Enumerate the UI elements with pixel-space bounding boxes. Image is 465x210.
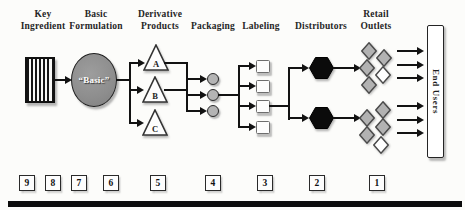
retail-diamond-icon bbox=[359, 109, 375, 127]
line-branch-vertical bbox=[129, 62, 131, 124]
labeling-square-1 bbox=[256, 60, 270, 74]
arrow-to-label-2 bbox=[239, 85, 249, 87]
distributor-hexagon-1 bbox=[309, 57, 334, 79]
packaging-circle-3 bbox=[207, 105, 219, 117]
end-users-box: End Users bbox=[427, 25, 444, 158]
basic-formulation-ellipse: “Basic” bbox=[71, 53, 117, 107]
packaging-circle-1 bbox=[207, 73, 219, 85]
sequence-box-7: 7 bbox=[71, 175, 87, 191]
labeling-square-2 bbox=[256, 80, 270, 94]
arrow-to-package-3 bbox=[187, 110, 200, 112]
sequence-box-3: 3 bbox=[257, 175, 273, 191]
distributor-hexagon-2 bbox=[309, 107, 334, 129]
arrow-to-label-1 bbox=[239, 65, 249, 67]
arrow-to-distributor-2 bbox=[289, 117, 302, 119]
arrow-to-end-users-2 bbox=[397, 64, 417, 66]
arrow-to-end-users-4 bbox=[397, 105, 417, 107]
line-labeling-vertical bbox=[238, 65, 240, 128]
stage-label-retail-outlets: Retail Outlets bbox=[346, 9, 406, 32]
sequence-box-8: 8 bbox=[45, 175, 61, 191]
arrow-ingredient-to-formulation bbox=[55, 79, 65, 81]
end-users-label: End Users bbox=[431, 69, 441, 114]
sequence-box-1: 1 bbox=[369, 175, 385, 191]
arrow-to-product-c bbox=[130, 122, 137, 124]
arrow-to-retail-cluster-2 bbox=[333, 117, 354, 119]
arrow-to-package-1 bbox=[187, 78, 200, 80]
labeling-square-4 bbox=[256, 121, 270, 135]
arrow-to-end-users-6 bbox=[397, 132, 417, 134]
sequence-box-5: 5 bbox=[150, 175, 166, 191]
arrow-to-label-3 bbox=[239, 105, 249, 107]
arrow-to-end-users-3 bbox=[397, 77, 417, 79]
arrow-to-end-users-1 bbox=[397, 50, 417, 52]
bottom-rule bbox=[8, 201, 462, 207]
triangle-product-a: A bbox=[143, 44, 169, 71]
sequence-box-6: 6 bbox=[103, 175, 119, 191]
arrow-to-label-4 bbox=[239, 126, 249, 128]
sequence-box-2: 2 bbox=[309, 175, 325, 191]
retail-diamond-icon bbox=[359, 59, 375, 77]
line-collector-vertical bbox=[186, 62, 188, 112]
arrow-to-distributor-1 bbox=[289, 67, 302, 69]
triangle-product-c: C bbox=[142, 109, 168, 136]
line-labeling-out bbox=[269, 105, 289, 107]
line-packaging-out bbox=[218, 94, 239, 96]
sequence-box-9: 9 bbox=[19, 175, 35, 191]
key-ingredient-shape bbox=[25, 57, 55, 103]
retail-diamond-icon bbox=[376, 49, 392, 67]
retail-diamond-icon bbox=[373, 136, 389, 154]
line-product-a-out bbox=[164, 62, 188, 64]
supply-chain-diagram: Key Ingredient Basic Formulation Derivat… bbox=[0, 0, 465, 210]
arrow-to-package-2 bbox=[187, 94, 200, 96]
retail-diamond-icon bbox=[361, 76, 377, 94]
basic-formulation-text: “Basic” bbox=[79, 75, 110, 85]
retail-diamond-icon bbox=[361, 42, 377, 60]
retail-diamond-icon bbox=[375, 118, 391, 136]
retail-diamond-icon bbox=[375, 66, 391, 84]
line-product-b-out bbox=[164, 89, 188, 91]
triangle-b-label: B bbox=[142, 91, 168, 101]
retail-diamond-icon bbox=[375, 101, 391, 119]
sequence-box-4: 4 bbox=[205, 175, 221, 191]
arrow-to-product-a bbox=[130, 62, 138, 64]
line-distributor-vertical bbox=[288, 67, 290, 120]
triangle-c-label: C bbox=[142, 124, 168, 134]
stage-label-labeling: Labeling bbox=[231, 21, 291, 33]
arrow-to-end-users-5 bbox=[397, 119, 417, 121]
arrow-to-product-b bbox=[130, 89, 137, 91]
arrow-to-retail-cluster-1 bbox=[333, 67, 354, 69]
labeling-square-3 bbox=[256, 100, 270, 114]
